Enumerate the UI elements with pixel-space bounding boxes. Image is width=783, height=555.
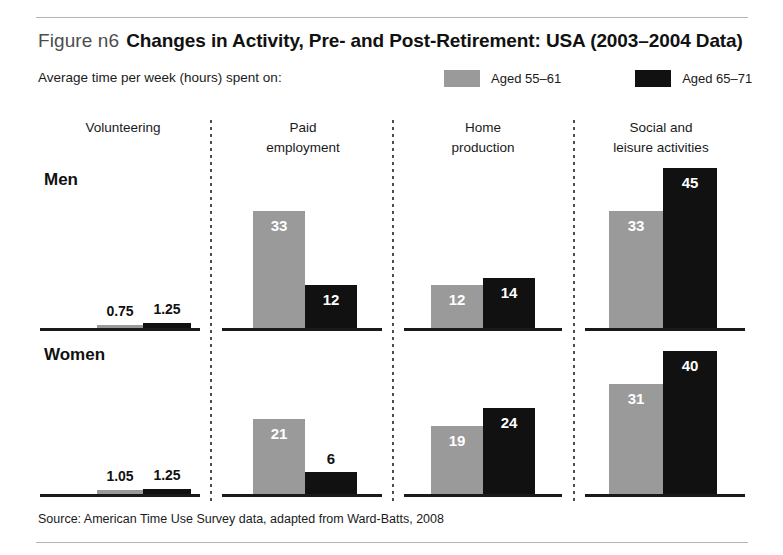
top-divider <box>36 17 748 18</box>
bar-men-paid-aged-55-61[interactable]: 33 <box>253 211 305 328</box>
column-header-volunteering-line1: Volunteering <box>36 118 210 138</box>
legend-item-aged-55-61: Aged 55–61 <box>444 70 561 87</box>
chart-men-paid-employment: 33 12 <box>222 168 382 331</box>
bar-value-men-social-aged-65-71: 45 <box>663 174 717 191</box>
figure-subtitle: Average time per week (hours) spent on: <box>38 70 282 85</box>
bar-value-women-volunteering-aged-65-71: 1.25 <box>143 467 191 483</box>
bar-value-men-volunteering-aged-65-71: 1.25 <box>143 301 191 317</box>
bar-men-paid-aged-65-71[interactable]: 12 <box>305 285 357 328</box>
bar-women-volunteering-aged-55-61[interactable]: 1.05 <box>97 490 143 494</box>
legend-swatch-icon-gray <box>444 70 480 87</box>
chart-women-paid-employment: 21 6 <box>222 340 382 497</box>
axis-line <box>40 328 200 331</box>
chart-men-social-leisure: 33 45 <box>585 168 745 331</box>
bar-value-men-home-aged-65-71: 14 <box>483 284 535 301</box>
bottom-divider <box>36 542 748 543</box>
figure-title-row: Figure n6Changes in Activity, Pre- and P… <box>38 30 743 52</box>
column-header-paid-employment-line2: employment <box>216 138 390 158</box>
bar-value-men-paid-aged-65-71: 12 <box>305 291 357 308</box>
column-header-home-production-line2: production <box>396 138 570 158</box>
column-header-social-leisure-line1: Social and <box>574 118 748 138</box>
bar-women-social-aged-55-61[interactable]: 31 <box>609 384 663 494</box>
bar-value-men-volunteering-aged-55-61: 0.75 <box>97 303 143 319</box>
bar-value-men-paid-aged-55-61: 33 <box>253 217 305 234</box>
bar-value-women-paid-aged-55-61: 21 <box>253 425 305 442</box>
bar-value-women-home-aged-55-61: 19 <box>431 432 483 449</box>
bar-value-women-social-aged-65-71: 40 <box>663 357 717 374</box>
axis-line <box>222 494 382 497</box>
bar-value-men-home-aged-55-61: 12 <box>431 291 483 308</box>
bar-men-volunteering-aged-55-61[interactable]: 0.75 <box>97 325 143 328</box>
column-header-paid-employment-line1: Paid <box>216 118 390 138</box>
bar-value-women-social-aged-55-61: 31 <box>609 390 663 407</box>
axis-line <box>222 328 382 331</box>
axis-line <box>585 328 745 331</box>
figure-container: Figure n6Changes in Activity, Pre- and P… <box>0 0 783 555</box>
bar-men-social-aged-55-61[interactable]: 33 <box>609 211 663 328</box>
source-note: Source: American Time Use Survey data, a… <box>38 512 444 526</box>
column-header-home-production: Home production <box>396 118 570 158</box>
legend-item-aged-65-71: Aged 65–71 <box>635 70 752 87</box>
legend-label-aged-55-61: Aged 55–61 <box>491 71 561 86</box>
bar-value-women-paid-aged-65-71: 6 <box>305 450 357 467</box>
bar-women-paid-aged-55-61[interactable]: 21 <box>253 419 305 494</box>
bar-women-home-aged-55-61[interactable]: 19 <box>431 426 483 494</box>
bar-men-home-aged-55-61[interactable]: 12 <box>431 285 483 328</box>
bar-women-social-aged-65-71[interactable]: 40 <box>663 351 717 494</box>
legend-label-aged-65-71: Aged 65–71 <box>682 71 752 86</box>
axis-line <box>404 328 562 331</box>
bar-value-women-home-aged-65-71: 24 <box>483 414 535 431</box>
column-separator-3 <box>573 120 575 502</box>
figure-number: Figure n6 <box>38 30 119 51</box>
column-header-volunteering: Volunteering <box>36 118 210 138</box>
bar-men-social-aged-65-71[interactable]: 45 <box>663 168 717 328</box>
axis-line <box>40 494 200 497</box>
legend-swatch-icon-black <box>635 70 671 87</box>
bar-women-volunteering-aged-65-71[interactable]: 1.25 <box>143 489 191 494</box>
chart-men-home-production: 12 14 <box>404 168 562 331</box>
bar-value-women-volunteering-aged-55-61: 1.05 <box>97 468 143 484</box>
bar-men-home-aged-65-71[interactable]: 14 <box>483 278 535 328</box>
bar-value-men-social-aged-55-61: 33 <box>609 217 663 234</box>
chart-women-home-production: 19 24 <box>404 340 562 497</box>
column-header-paid-employment: Paid employment <box>216 118 390 158</box>
axis-line <box>585 494 745 497</box>
column-separator-1 <box>210 120 212 502</box>
chart-women-volunteering: 1.05 1.25 <box>40 340 200 497</box>
page-title: Changes in Activity, Pre- and Post-Retir… <box>126 30 743 51</box>
chart-women-social-leisure: 31 40 <box>585 340 745 497</box>
axis-line <box>404 494 562 497</box>
bar-women-home-aged-65-71[interactable]: 24 <box>483 408 535 494</box>
column-header-social-leisure: Social and leisure activities <box>574 118 748 158</box>
legend: Aged 55–61 Aged 65–71 <box>444 70 752 87</box>
chart-men-volunteering: 0.75 1.25 <box>40 168 200 331</box>
column-header-social-leisure-line2: leisure activities <box>574 138 748 158</box>
column-separator-2 <box>392 120 394 502</box>
bar-women-paid-aged-65-71[interactable]: 6 <box>305 472 357 494</box>
column-header-home-production-line1: Home <box>396 118 570 138</box>
bar-men-volunteering-aged-65-71[interactable]: 1.25 <box>143 323 191 328</box>
